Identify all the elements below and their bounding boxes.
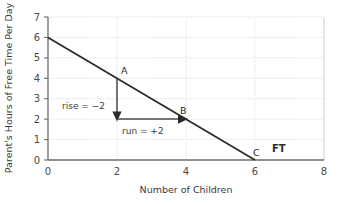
rise-annotation-label: rise = −2 [62, 101, 105, 111]
y-tick-1: 1 [34, 134, 40, 145]
x-axis-title: Number of Children [140, 184, 233, 195]
x-tick-8: 8 [321, 166, 327, 177]
y-tick-5: 5 [34, 52, 40, 63]
budget-line-chart: 7 6 5 4 3 2 1 0 0 2 4 6 8 Number of Chil… [0, 0, 341, 204]
x-tick-6: 6 [252, 166, 258, 177]
x-tick-2: 2 [114, 166, 120, 177]
y-tick-0: 0 [34, 155, 40, 166]
chart-container: 7 6 5 4 3 2 1 0 0 2 4 6 8 Number of Chil… [0, 0, 341, 204]
y-tick-7: 7 [34, 12, 40, 23]
y-tick-6: 6 [34, 32, 40, 43]
y-axis-title: Parent's Hours of Free Time Per Day [3, 2, 14, 173]
y-tick-3: 3 [34, 93, 40, 104]
y-tick-4: 4 [34, 73, 40, 84]
point-label-b: B [180, 105, 187, 116]
point-label-c: C [253, 147, 260, 158]
line-label-ft: FT [272, 143, 286, 154]
point-label-a: A [121, 65, 128, 76]
x-tick-0: 0 [45, 166, 51, 177]
run-annotation-label: run = +2 [122, 126, 164, 136]
y-tick-2: 2 [34, 114, 40, 125]
x-tick-4: 4 [183, 166, 189, 177]
